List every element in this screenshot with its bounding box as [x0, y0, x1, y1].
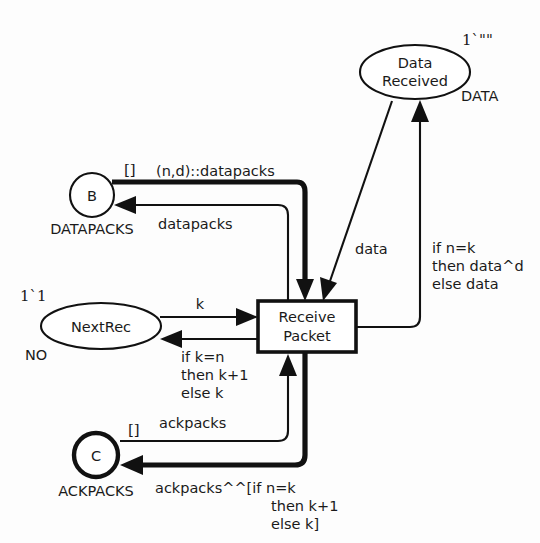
arc-label-data-received-to-transition: data: [355, 241, 388, 257]
arc-label-transition-to-data-received: if n=k then data^d else data: [432, 240, 524, 292]
cpn-diagram-canvas: Data Received DATA 1`"" B DATAPACKS [] N…: [0, 0, 540, 543]
place-c-label: C: [91, 448, 101, 464]
arc-nextrec-to-transition[interactable]: [160, 308, 258, 326]
place-data-received-type: DATA: [461, 88, 498, 104]
arc-label-transition-to-nextrec-line3: else k: [181, 385, 224, 401]
arrowhead-into-place-b: [114, 196, 136, 214]
arc-label-transition-to-nextrec-line2: then k+1: [181, 367, 248, 383]
place-nextrec-marking: 1`1: [20, 287, 47, 305]
petri-net-svg: Data Received DATA 1`"" B DATAPACKS [] N…: [0, 0, 540, 543]
arc-label-transition-to-nextrec-line1: if k=n: [181, 349, 224, 365]
arc-transition-to-data-received[interactable]: [356, 100, 429, 327]
arc-label-transition-to-nextrec: if k=n then k+1 else k: [181, 349, 248, 401]
transition-receive-packet-label-line1: Receive: [279, 309, 336, 325]
arc-transition-to-nextrec[interactable]: [160, 330, 258, 348]
transition-receive-packet[interactable]: Receive Packet: [258, 301, 356, 352]
place-b-label: B: [87, 188, 97, 204]
arc-b-to-transition-line: [112, 182, 305, 283]
arc-label-transition-to-c: ackpacks^^[if n=k then k+1 else k]: [155, 480, 338, 532]
place-data-received-marking: 1`"": [462, 31, 493, 49]
place-c-marking: []: [128, 421, 140, 439]
place-b[interactable]: B DATAPACKS []: [50, 161, 136, 237]
place-data-received-label-line2: Received: [382, 73, 448, 89]
place-nextrec-label: NextRec: [71, 319, 131, 335]
place-nextrec[interactable]: NextRec NO 1`1: [20, 287, 161, 363]
arc-label-nextrec-to-transition: k: [196, 296, 205, 312]
arrowhead-into-transition-left: [236, 308, 258, 326]
arc-label-transition-to-data-received-line1: if n=k: [432, 240, 476, 256]
arrowhead-into-transition-bottom-left: [279, 354, 297, 376]
place-b-marking: []: [124, 161, 136, 179]
arc-label-transition-to-c-line1: ackpacks^^[if n=k: [155, 480, 296, 496]
arrowhead-into-nextrec: [160, 330, 182, 348]
arc-b-to-transition[interactable]: [112, 182, 314, 301]
place-data-received-label-line1: Data: [398, 55, 433, 71]
arc-label-transition-to-b: datapacks: [158, 216, 233, 232]
place-c[interactable]: C ACKPACKS []: [58, 421, 140, 499]
arc-label-c-to-transition: ackpacks: [159, 415, 226, 431]
place-nextrec-type: NO: [25, 347, 47, 363]
arc-label-transition-to-c-line2: then k+1: [271, 498, 338, 514]
arc-label-transition-to-data-received-line2: then data^d: [432, 258, 524, 274]
arrowhead-into-place-c: [120, 455, 143, 475]
arrowhead-into-data-received: [411, 100, 429, 122]
arc-data-received-to-transition[interactable]: [320, 101, 392, 301]
transition-receive-packet-label-line2: Packet: [283, 328, 331, 344]
place-data-received-shape: [360, 45, 470, 99]
arrowhead-into-transition-top-left: [296, 279, 314, 301]
arc-label-transition-to-c-line3: else k]: [271, 516, 319, 532]
arrowhead-into-transition-top-right: [320, 277, 337, 301]
arc-transition-to-b[interactable]: [114, 196, 288, 300]
place-data-received[interactable]: Data Received DATA 1`"": [360, 31, 498, 104]
place-c-type: ACKPACKS: [58, 483, 134, 499]
arc-transition-to-data-received-line: [356, 118, 420, 327]
arc-label-transition-to-data-received-line3: else data: [432, 276, 499, 292]
place-b-type: DATAPACKS: [50, 221, 134, 237]
arc-label-b-to-transition: (n,d)::datapacks: [156, 163, 275, 179]
